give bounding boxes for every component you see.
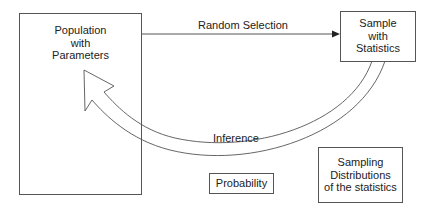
probability-label: Probability: [210, 177, 273, 190]
sample-label-line-2: with: [341, 30, 415, 43]
population-label-line-1: Population: [20, 24, 141, 37]
sampling-label-line-1: Sampling: [319, 156, 402, 169]
random-selection-label: Random Selection: [198, 19, 288, 32]
sampling-distributions-node: Sampling Distributions of the statistics: [318, 147, 403, 203]
random-selection-arrowhead-icon: [332, 31, 340, 38]
sample-label-line-3: Statistics: [341, 42, 415, 55]
population-node: Population with Parameters: [19, 13, 142, 195]
inference-label: Inference: [213, 132, 259, 145]
sampling-label-line-3: of the statistics: [319, 181, 402, 194]
sampling-label-line-2: Distributions: [319, 169, 402, 182]
sample-label-line-1: Sample: [341, 17, 415, 30]
probability-node: Probability: [209, 173, 274, 194]
population-label-line-3: Parameters: [20, 49, 141, 62]
population-label-line-2: with: [20, 37, 141, 50]
sample-node: Sample with Statistics: [340, 11, 416, 62]
